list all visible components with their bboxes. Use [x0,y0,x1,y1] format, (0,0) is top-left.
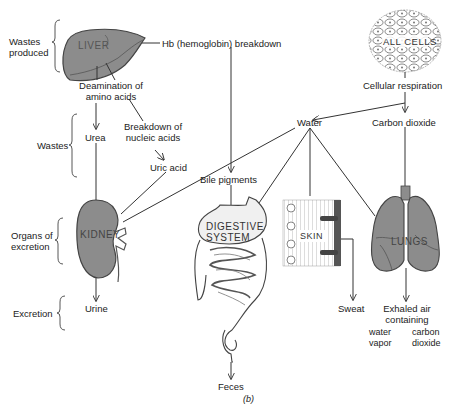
lungs-illustration [372,186,440,271]
bracket-excretion [57,296,65,330]
node-uric-acid: Uric acid [150,162,187,173]
node-urea: Urea [85,132,106,143]
node-water-vapor: water vapor [369,327,399,349]
organ-label-digestive-system: DIGESTIVE SYSTEM [206,221,266,243]
excretion-diagram: Wastes produced Wastes Organs of excreti… [0,0,455,407]
organ-label-all-cells: ALL CELLS [383,36,437,47]
figure-caption: (b) [243,394,254,404]
bracket-organs [55,218,63,264]
node-bile-pigments: Bile pigments [200,174,257,185]
node-urine: Urine [85,303,108,314]
liver-illustration [63,29,145,80]
label-wastes-produced: Wastes produced [9,36,53,58]
organ-label-lungs: LUNGS [391,236,428,247]
node-carbon-dioxide: Carbon dioxide [372,117,436,128]
node-carbon-dioxide-out: carbon dioxide [412,327,448,349]
label-wastes: Wastes [37,140,68,151]
node-deamination: Deamination of amino acids [75,80,147,102]
node-water: Water [297,117,322,128]
label-excretion: Excretion [13,308,53,319]
bracket-wastes [69,114,77,177]
bracket-wastes-produced [52,20,60,72]
node-breakdown-nucleic-acids: Breakdown of nucleic acids [120,121,186,143]
node-exhaled-air: Exhaled air containing [382,303,432,325]
kidney-illustration [77,200,126,282]
organ-label-kidney: KIDNEY [80,229,120,240]
node-feces: Feces [218,381,244,392]
label-organs-of-excretion: Organs of excretion [11,230,55,252]
wastes-produced-text: Wastes produced [9,36,53,58]
organ-label-liver: LIVER [78,40,109,51]
node-cellular-respiration: Cellular respiration [363,80,442,91]
organ-label-skin: SKIN [300,231,323,242]
node-sweat: Sweat [338,303,364,314]
node-hb-breakdown: Hb (hemoglobin) breakdown [162,38,281,49]
